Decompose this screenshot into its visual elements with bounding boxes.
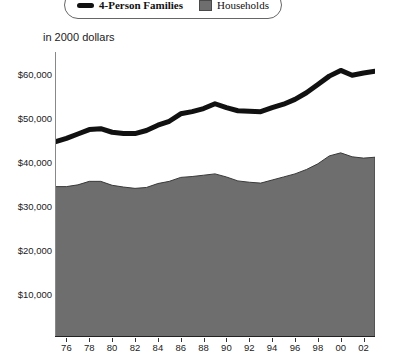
x-tick-label: 84	[153, 342, 164, 353]
chart-series-svg	[55, 52, 375, 337]
x-tick-label: 98	[313, 342, 324, 353]
plot-area	[55, 52, 375, 337]
x-tick-label: 78	[84, 342, 95, 353]
legend-label-households: Households	[217, 0, 269, 11]
x-axis-line	[55, 336, 375, 337]
y-tick-label: $40,000	[4, 157, 52, 168]
y-axis-line	[55, 52, 56, 337]
chart-root: 4-Person Families Households in 2000 dol…	[0, 0, 394, 363]
x-tick-label: 96	[290, 342, 301, 353]
y-tick-label: $10,000	[4, 289, 52, 300]
y-tick-label: $50,000	[4, 113, 52, 124]
units-annotation: in 2000 dollars	[43, 31, 115, 43]
households-area-series	[55, 153, 375, 337]
x-tick-label: 80	[107, 342, 118, 353]
x-tick-label: 90	[221, 342, 232, 353]
x-axis-ticks: 7678808284868890929496980002	[55, 338, 375, 358]
x-tick-label: 88	[198, 342, 209, 353]
legend-label-4-person-families: 4-Person Families	[99, 0, 183, 11]
x-tick-label: 86	[175, 342, 186, 353]
families-line-series	[55, 70, 375, 141]
y-axis-ticks: $60,000 $50,000 $40,000 $30,000 $20,000 …	[0, 52, 52, 337]
x-tick-label: 76	[61, 342, 72, 353]
y-tick-label: $30,000	[4, 201, 52, 212]
y-tick-label: $60,000	[4, 69, 52, 80]
x-tick-label: 94	[267, 342, 278, 353]
line-swatch-icon	[77, 3, 94, 8]
square-swatch-icon	[199, 0, 212, 11]
x-tick-label: 92	[244, 342, 255, 353]
x-tick-label: 00	[335, 342, 346, 353]
chart-legend: 4-Person Families Households	[64, 0, 282, 19]
x-tick-label: 82	[130, 342, 141, 353]
legend-item-households: Households	[199, 0, 269, 11]
legend-item-4-person-families: 4-Person Families	[77, 0, 183, 11]
x-tick-label: 02	[358, 342, 369, 353]
y-tick-label: $20,000	[4, 245, 52, 256]
